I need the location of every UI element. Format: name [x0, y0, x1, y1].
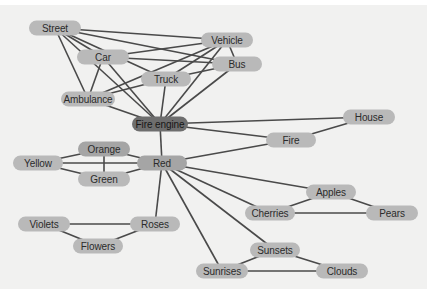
- node-fire-engine: Fire engine: [132, 117, 188, 132]
- node-violets: Violets: [18, 217, 70, 232]
- node-fire: Fire: [266, 133, 316, 148]
- node-cherries: Cherries: [245, 206, 295, 221]
- node-truck: Truck: [141, 72, 191, 87]
- edge-fire-engine-house: [160, 117, 369, 124]
- node-yellow: Yellow: [13, 156, 63, 171]
- node-roses: Roses: [130, 217, 180, 232]
- node-apples: Apples: [306, 185, 356, 200]
- edges-layer: [0, 5, 427, 289]
- semantic-network-diagram: StreetVehicleCarBusTruckAmbulanceFire en…: [0, 5, 427, 289]
- node-pears: Pears: [366, 206, 418, 221]
- node-street: Street: [29, 21, 81, 36]
- node-sunsets: Sunsets: [250, 243, 300, 258]
- node-ambulance: Ambulance: [61, 92, 115, 107]
- node-vehicle: Vehicle: [201, 33, 253, 48]
- node-green: Green: [78, 172, 130, 187]
- node-sunrises: Sunrises: [196, 264, 248, 279]
- node-orange: Orange: [78, 142, 130, 157]
- node-flowers: Flowers: [73, 239, 123, 254]
- node-car: Car: [77, 50, 129, 65]
- node-house: House: [343, 110, 395, 125]
- node-clouds: Clouds: [316, 264, 368, 279]
- edge-red-roses: [155, 163, 162, 224]
- edge-red-apples: [162, 163, 331, 192]
- node-bus: Bus: [212, 57, 262, 72]
- node-red: Red: [137, 156, 187, 171]
